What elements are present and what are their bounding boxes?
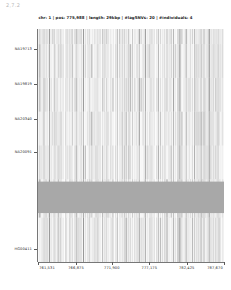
x-tick-mark (187, 262, 188, 265)
y-tick-label: NA20091 (15, 150, 32, 155)
haplotype-figure: 2,7.2 chr: 1 | pos: 775,988 | length: 29… (0, 0, 231, 290)
x-tick-mark (149, 262, 150, 265)
page-title: chr: 1 | pos: 775,988 | length: 29kbp | … (0, 15, 231, 21)
y-tick-label: NA20340 (15, 116, 32, 121)
x-tick-mark (76, 262, 77, 265)
x-tick-label: 771,900 (104, 266, 120, 271)
y-tick-mark (34, 49, 37, 50)
corner-watermark: 2,7.2 (6, 2, 20, 8)
x-tick-label: 782,425 (179, 266, 195, 271)
x-tick-mark (112, 262, 113, 265)
x-tick-label: 787,670 (207, 266, 223, 271)
y-tick-mark (34, 249, 37, 250)
x-axis: 761,531766,875771,900777,175782,425787,6… (38, 262, 224, 288)
variant-plot-area[interactable] (38, 29, 224, 262)
y-tick-label: HG00411 (14, 247, 32, 252)
x-tick-mark (224, 262, 225, 265)
x-tick-label: 761,531 (39, 266, 55, 271)
y-tick-mark (34, 84, 37, 85)
x-tick-label: 777,175 (142, 266, 158, 271)
y-tick-label: NA19819 (15, 81, 32, 86)
y-tick-mark (34, 152, 37, 153)
y-axis: NA19713NA19819NA20340NA20091HG00411 (0, 29, 38, 262)
y-tick-label: NA19713 (15, 46, 32, 51)
variant-heatmap-canvas[interactable] (38, 29, 224, 262)
y-tick-mark (34, 119, 37, 120)
x-tick-mark (38, 262, 39, 265)
x-tick-label: 766,875 (68, 266, 84, 271)
